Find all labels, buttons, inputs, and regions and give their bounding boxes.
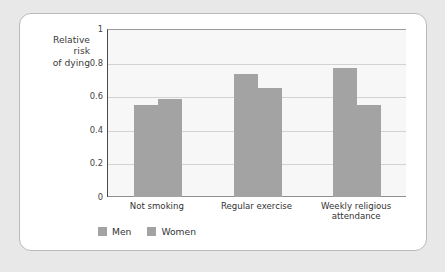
bar-women-2 bbox=[357, 105, 381, 197]
y-axis-tick-label: 0.6 bbox=[72, 92, 103, 100]
gridline bbox=[108, 64, 406, 65]
legend-label: Men bbox=[112, 226, 131, 237]
y-axis-tick-label: 0.4 bbox=[72, 126, 103, 134]
y-axis-tick-label: 0.2 bbox=[72, 159, 103, 167]
legend-label: Women bbox=[161, 226, 196, 237]
bar-women-1 bbox=[258, 88, 282, 197]
plot-area bbox=[107, 29, 406, 197]
y-axis-tick-label: 1 bbox=[72, 25, 103, 33]
bar-men-2 bbox=[333, 68, 357, 197]
legend: MenWomen bbox=[98, 226, 196, 237]
chart-card: Relative risk of dying 00.20.40.60.81 No… bbox=[19, 13, 427, 251]
legend-swatch-icon bbox=[98, 227, 107, 236]
legend-swatch-icon bbox=[147, 227, 156, 236]
x-axis-category-label: Not smoking bbox=[107, 201, 207, 211]
legend-item-men[interactable]: Men bbox=[98, 226, 131, 237]
legend-item-women[interactable]: Women bbox=[147, 226, 196, 237]
y-axis-tick-label: 0 bbox=[72, 193, 103, 201]
x-axis-category-label: Regular exercise bbox=[207, 201, 307, 211]
y-axis-tick-labels: 00.20.40.60.81 bbox=[72, 29, 103, 197]
bar-chart-figure: Relative risk of dying 00.20.40.60.81 No… bbox=[20, 14, 428, 252]
y-axis-tick-label: 0.8 bbox=[72, 58, 103, 66]
x-axis-category-label: Weekly religious attendance bbox=[306, 201, 406, 222]
bar-women-0 bbox=[158, 99, 182, 197]
bar-men-1 bbox=[234, 74, 258, 197]
bar-men-0 bbox=[134, 105, 158, 197]
